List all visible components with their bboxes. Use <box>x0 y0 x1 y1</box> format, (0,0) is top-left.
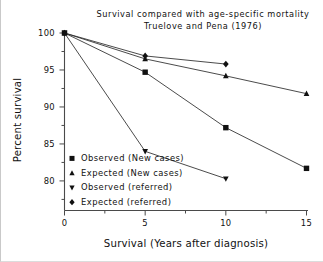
chart-legend: Observed (New cases)Expected (New cases)… <box>69 153 184 207</box>
legend-item: Expected (referred) <box>69 197 171 207</box>
figure-frame: Survival compared with age-specific mort… <box>0 0 323 262</box>
x-tick-label: 15 <box>301 218 312 228</box>
legend-item: Observed (New cases) <box>70 153 185 163</box>
y-axis-ticks: 10095908580 <box>38 28 64 199</box>
data-point <box>142 69 147 74</box>
y-tick-label: 95 <box>44 65 55 75</box>
series-1 <box>62 30 310 96</box>
legend-label: Expected (New cases) <box>81 168 183 178</box>
survival-line-chart: Survival compared with age-specific mort… <box>1 0 323 262</box>
x-tick-label: 0 <box>62 218 68 228</box>
chart-subtitle: Truelove and Pena (1976) <box>143 21 262 31</box>
chart-title: Survival compared with age-specific mort… <box>97 9 310 19</box>
x-tick-label: 5 <box>142 218 148 228</box>
y-axis-label: Percent survival <box>12 78 23 163</box>
x-axis-label: Survival (Years after diagnosis) <box>104 238 268 249</box>
x-tick-label: 10 <box>220 218 231 228</box>
legend-item: Observed (referred) <box>69 182 172 192</box>
legend-marker-icon <box>70 156 75 161</box>
legend-label: Expected (referred) <box>81 197 171 207</box>
legend-label: Observed (New cases) <box>81 153 184 163</box>
legend-marker-icon <box>69 199 74 205</box>
y-tick-label: 90 <box>44 102 55 112</box>
legend-label: Observed (referred) <box>81 182 173 192</box>
legend-item: Expected (New cases) <box>69 168 182 178</box>
y-tick-label: 85 <box>44 139 55 149</box>
legend-marker-icon <box>69 185 74 190</box>
y-tick-label: 80 <box>44 176 55 186</box>
series-3 <box>62 30 229 68</box>
data-point <box>223 61 229 68</box>
data-point <box>223 125 228 130</box>
series-line <box>65 33 307 94</box>
data-point <box>304 166 309 171</box>
y-tick-label: 100 <box>38 28 55 38</box>
data-point <box>223 176 229 181</box>
series-line <box>65 33 307 168</box>
series-0 <box>62 30 309 171</box>
x-axis-ticks: 051015 <box>62 211 312 229</box>
legend-marker-icon <box>69 170 74 175</box>
